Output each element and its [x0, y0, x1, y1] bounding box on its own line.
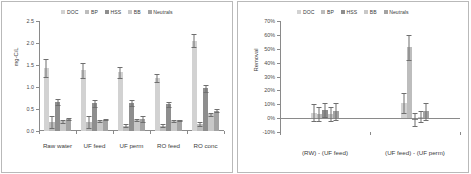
- error-bar-cap: [197, 122, 202, 123]
- legend-item-doc[interactable]: DOC: [297, 9, 314, 15]
- bar-rect: [214, 111, 220, 131]
- error-bar-cap: [334, 120, 339, 121]
- legend-swatch-icon: [148, 10, 152, 14]
- y-axis-tick-label: 1.0: [27, 84, 35, 90]
- x-axis-tick: [150, 131, 151, 134]
- y-axis-tick-label: 30%: [264, 74, 275, 80]
- legend-item-label: BB: [370, 9, 377, 15]
- legend-item-label: HSS: [111, 9, 122, 15]
- error-bar-cap: [86, 116, 91, 117]
- error-bar-cap: [44, 59, 49, 60]
- x-axis-tick-label: RO conc: [187, 142, 224, 149]
- legend-item-bb[interactable]: BB: [364, 9, 377, 15]
- error-bar-cap: [418, 111, 423, 112]
- legend-item-hss[interactable]: HSS: [105, 9, 121, 15]
- legend-item-label: BP: [91, 9, 98, 15]
- error-bar-cap: [66, 118, 71, 119]
- bar-neutrals[interactable]: [423, 21, 429, 132]
- chart-panel-concentrations: DOCBPHSSBBNeutrals mg-C/L 0.00.51.01.52.…: [1, 1, 233, 173]
- error-bar-cap: [140, 122, 145, 123]
- error-bar-cap: [135, 121, 140, 122]
- x-axis-tick-label: UF feed: [76, 142, 113, 149]
- error-bar-cap: [172, 122, 177, 123]
- error-bar-cap: [118, 67, 123, 68]
- legend-item-bp[interactable]: BP: [85, 9, 98, 15]
- error-bar-cap: [203, 92, 208, 93]
- bar-neutrals[interactable]: [333, 21, 339, 132]
- error-bar-cap: [424, 103, 429, 104]
- plot-area-concentrations: 0.00.51.01.52.02.5: [39, 21, 224, 131]
- x-axis-labels-right: (RW) - (UF feed)(UF feed) - (UF perm): [280, 149, 460, 156]
- x-axis-tick-label: (RW) - (UF feed): [280, 149, 370, 156]
- error-bar-cap: [98, 120, 103, 121]
- error-bar-cap: [81, 63, 86, 64]
- chart-panel-removal: DOCBPHSSBBNeutrals Removal -10%0%10%20%3…: [237, 1, 469, 173]
- error-bar: [313, 104, 314, 121]
- y-axis-tick-label: 0%: [267, 115, 275, 121]
- error-bar: [420, 111, 421, 122]
- error-bar-cap: [160, 127, 165, 128]
- bar-group: [39, 21, 76, 131]
- bar-neutrals[interactable]: [214, 21, 220, 131]
- y-axis-tick-label: 2.5: [27, 18, 35, 24]
- error-bar: [330, 107, 331, 121]
- error-bar-cap: [86, 128, 91, 129]
- error-bar: [325, 103, 326, 117]
- error-bar-cap: [209, 116, 214, 117]
- x-axis-tick-label: RO feed: [150, 142, 187, 149]
- error-bar-cap: [214, 112, 219, 113]
- legend-swatch-icon: [321, 10, 325, 14]
- bar-neutrals[interactable]: [177, 21, 183, 131]
- legend-swatch-icon: [364, 10, 368, 14]
- error-bar-cap: [317, 107, 322, 108]
- legend-item-bp[interactable]: BP: [321, 9, 334, 15]
- legend-swatch-icon: [128, 10, 132, 14]
- error-bar-cap: [328, 107, 333, 108]
- error-bar: [157, 74, 158, 82]
- error-bar-cap: [103, 120, 108, 121]
- error-bar-cap: [197, 126, 202, 127]
- error-bar-cap: [407, 35, 412, 36]
- legend-item-neutrals[interactable]: Neutrals: [384, 9, 409, 15]
- y-axis-tick-label: 1.5: [27, 62, 35, 68]
- error-bar-cap: [311, 104, 316, 105]
- error-bar-cap: [98, 122, 103, 123]
- error-bar-cap: [328, 121, 333, 122]
- error-bar-cap: [177, 121, 182, 122]
- error-bar-cap: [317, 121, 322, 122]
- legend-item-bb[interactable]: BB: [128, 9, 141, 15]
- error-bar: [336, 103, 337, 120]
- bar-group: [187, 21, 224, 131]
- bar-group: [150, 21, 187, 131]
- y-axis-label-right: Removal: [253, 40, 259, 80]
- error-bar-cap: [413, 113, 418, 114]
- error-bar-cap: [118, 78, 123, 79]
- error-bar: [94, 100, 95, 107]
- error-bar: [319, 107, 320, 121]
- legend-item-neutrals[interactable]: Neutrals: [148, 9, 173, 15]
- legend-left: DOCBPHSSBBNeutrals: [2, 9, 232, 15]
- error-bar-cap: [407, 60, 412, 61]
- x-axis-tick: [113, 131, 114, 134]
- error-bar-cap: [123, 124, 128, 125]
- error-bar: [46, 59, 47, 77]
- legend-item-doc[interactable]: DOC: [61, 9, 78, 15]
- bar-neutrals[interactable]: [103, 21, 109, 131]
- error-bar: [83, 63, 84, 78]
- x-axis-tick-label: UF perm: [113, 142, 150, 149]
- plot-area-removal: -10%0%10%20%30%40%50%60%70%: [280, 21, 460, 132]
- legend-swatch-icon: [85, 10, 89, 14]
- x-axis-labels-left: Raw waterUF feedUF permRO feedRO conc: [39, 142, 224, 149]
- legend-right: DOCBPHSSBBNeutrals: [238, 9, 468, 15]
- error-bar-cap: [166, 102, 171, 103]
- y-axis-tick-label: -10%: [262, 129, 275, 135]
- bar-neutrals[interactable]: [140, 21, 146, 131]
- error-bar: [403, 93, 404, 112]
- x-axis-tick-label: (UF feed) - (UF perm): [370, 149, 460, 156]
- legend-item-hss[interactable]: HSS: [341, 9, 357, 15]
- bar-groups: [39, 21, 224, 131]
- error-bar: [194, 34, 195, 47]
- error-bar-cap: [92, 107, 97, 108]
- bar-neutrals[interactable]: [66, 21, 72, 131]
- error-bar-cap: [44, 77, 49, 78]
